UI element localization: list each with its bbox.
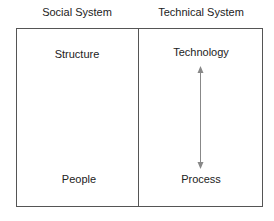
bidirectional-arrow-icon [0, 0, 274, 221]
